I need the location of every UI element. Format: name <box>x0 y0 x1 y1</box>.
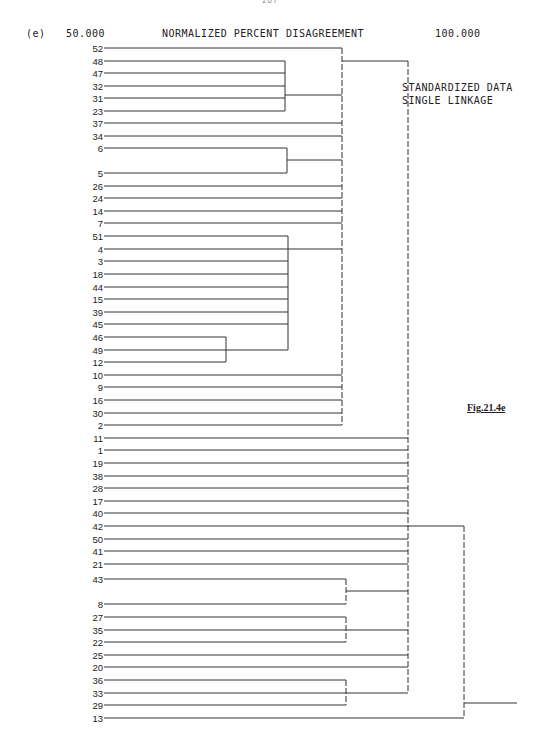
leaf-label: 28 <box>92 483 103 494</box>
leaf-label: 26 <box>92 181 103 192</box>
leaf-label: 24 <box>92 193 103 204</box>
leaf-label: 20 <box>92 662 103 673</box>
dendrogram: 5248473231233734652624147514318441539454… <box>0 0 547 732</box>
leaf-label: 48 <box>92 56 103 67</box>
leaf-label: 34 <box>92 131 103 142</box>
leaf-label: 13 <box>92 713 103 724</box>
leaf-label: 52 <box>92 43 103 54</box>
leaf-label: 29 <box>92 700 103 711</box>
leaf-label: 17 <box>92 496 103 507</box>
leaf-label: 46 <box>92 332 103 343</box>
leaf-label: 44 <box>92 282 103 293</box>
leaf-label: 1 <box>98 445 103 456</box>
leaf-label: 40 <box>92 508 103 519</box>
leaf-label: 19 <box>92 458 103 469</box>
leaf-label: 16 <box>92 395 103 406</box>
leaf-label: 8 <box>98 599 103 610</box>
leaf-label: 51 <box>92 231 103 242</box>
leaf-label: 2 <box>98 420 103 431</box>
leaf-label: 12 <box>92 357 103 368</box>
leaf-label: 41 <box>92 546 103 557</box>
leaf-label: 6 <box>98 143 103 154</box>
leaf-label: 43 <box>92 574 103 585</box>
leaf-label: 25 <box>92 650 103 661</box>
leaf-label: 32 <box>92 81 103 92</box>
leaf-label: 21 <box>92 559 103 570</box>
leaf-label: 3 <box>98 256 103 267</box>
leaf-label: 30 <box>92 408 103 419</box>
leaf-label: 49 <box>92 345 103 356</box>
leaf-label: 35 <box>92 625 103 636</box>
leaf-label: 42 <box>92 521 103 532</box>
leaf-label: 45 <box>92 319 103 330</box>
leaf-label: 22 <box>92 637 103 648</box>
leaf-label: 15 <box>92 294 103 305</box>
leaf-label: 39 <box>92 307 103 318</box>
leaf-label: 4 <box>98 244 103 255</box>
leaf-label: 9 <box>98 382 103 393</box>
leaf-label: 27 <box>92 612 103 623</box>
leaf-label: 36 <box>92 675 103 686</box>
leaf-label: 23 <box>92 106 103 117</box>
leaf-label: 11 <box>93 433 103 444</box>
leaf-label: 33 <box>92 688 103 699</box>
leaf-label: 37 <box>92 118 103 129</box>
leaf-label: 31 <box>92 93 103 104</box>
leaf-label: 10 <box>92 370 103 381</box>
leaf-label: 14 <box>92 206 103 217</box>
leaf-label: 50 <box>92 534 103 545</box>
leaf-label: 7 <box>98 218 103 229</box>
leaf-label: 5 <box>98 168 103 179</box>
leaf-label: 18 <box>92 269 103 280</box>
leaf-label: 38 <box>92 471 103 482</box>
leaf-label: 47 <box>92 68 103 79</box>
